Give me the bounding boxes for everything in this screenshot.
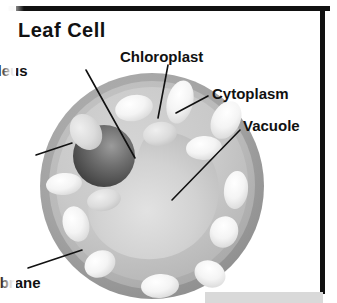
- label-cell-wall: ell all: [0, 140, 58, 174]
- label-cell-wall-line1: ell: [0, 140, 58, 157]
- label-nucleus-text: ucleus: [0, 62, 78, 79]
- label-cytoplasm: Cytoplasm: [212, 85, 289, 102]
- label-cell-membrane: ell embrane: [0, 257, 92, 291]
- label-cell-membrane-line1: ell: [0, 257, 92, 274]
- label-cell-wall-line2: all: [0, 157, 58, 174]
- page-border-top: [8, 6, 330, 11]
- label-chloroplast: Chloroplast: [120, 48, 203, 65]
- page-title: Leaf Cell: [18, 19, 106, 42]
- label-vacuole: Vacuole: [243, 117, 300, 134]
- label-cell-membrane-line2: embrane: [0, 274, 92, 291]
- leaf-cell-diagram-screenshot: Leaf Cell ucleus ell all ell embrane Chl…: [0, 0, 337, 303]
- label-nucleus: ucleus: [0, 62, 78, 79]
- bottom-cutoff-panel: [205, 292, 323, 303]
- page-border-right: [320, 6, 325, 294]
